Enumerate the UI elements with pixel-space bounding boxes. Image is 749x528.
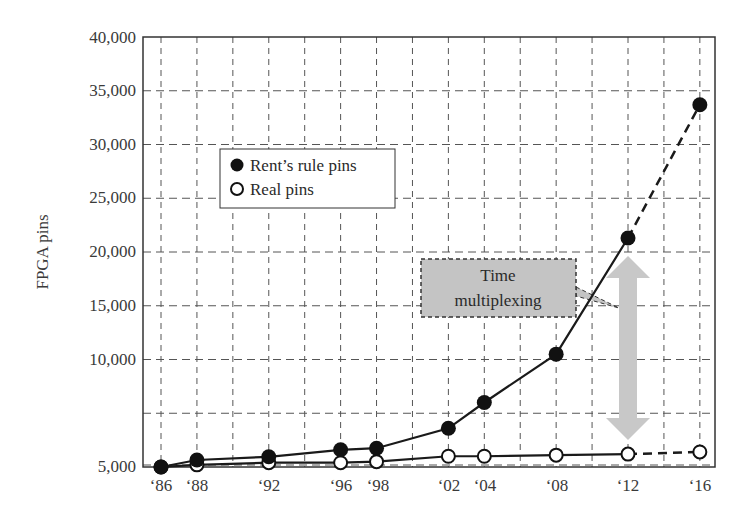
open-circle-marker-icon: [231, 183, 243, 195]
time-multiplexing-callout: Time multiplexing: [421, 259, 619, 317]
x-tick: ‘98: [367, 476, 390, 495]
filled-circle-marker-icon: [549, 347, 564, 362]
open-circle-marker-icon: [693, 445, 706, 458]
y-tick: 10,000: [89, 350, 136, 369]
filled-circle-marker-icon: [154, 460, 169, 475]
filled-circle-marker-icon: [333, 442, 348, 457]
x-tick: ‘88: [186, 476, 209, 495]
filled-circle-marker-icon: [621, 231, 636, 246]
open-circle-marker-icon: [334, 456, 347, 469]
filled-circle-marker-icon: [477, 395, 492, 410]
y-tick: 35,000: [89, 81, 136, 100]
x-axis-ticks: ‘86 ‘88 ‘92 ‘96 ‘98 ‘02 ‘04 ‘08 ‘12 ‘16: [150, 476, 712, 495]
filled-circle-marker-icon: [441, 421, 456, 436]
open-circle-marker-icon: [478, 450, 491, 463]
callout-line-1: Time: [480, 266, 515, 285]
x-tick: ‘86: [150, 476, 173, 495]
y-tick: 15,000: [89, 296, 136, 315]
x-tick: ‘02: [438, 476, 461, 495]
series-line-projected: [628, 452, 700, 454]
filled-circle-marker-icon: [692, 97, 707, 112]
legend-label-rents-rule: Rent’s rule pins: [250, 156, 357, 175]
open-circle-marker-icon: [622, 448, 635, 461]
callout-line-2: multiplexing: [455, 291, 542, 310]
filled-circle-marker-icon: [369, 441, 384, 456]
x-tick: ‘04: [474, 476, 497, 495]
x-tick: ‘08: [546, 476, 569, 495]
filled-circle-marker-icon: [261, 449, 276, 464]
y-axis-label: FPGA pins: [33, 214, 52, 289]
filled-circle-marker-icon: [231, 159, 244, 172]
open-circle-marker-icon: [550, 449, 563, 462]
y-tick: 25,000: [89, 188, 136, 207]
chart: 5,000 10,000 15,000 20,000 25,000 30,000…: [0, 0, 749, 528]
filled-circle-marker-icon: [189, 453, 204, 468]
y-axis-ticks: 5,000 10,000 15,000 20,000 25,000 30,000…: [89, 28, 136, 476]
y-tick: 30,000: [89, 135, 136, 154]
y-tick: 40,000: [89, 28, 136, 47]
y-tick: 20,000: [89, 242, 136, 261]
legend: Rent’s rule pins Real pins: [220, 149, 395, 208]
open-circle-marker-icon: [442, 450, 455, 463]
y-tick: 5,000: [98, 457, 136, 476]
x-tick: ‘12: [617, 476, 640, 495]
callout-pointer: [576, 287, 619, 308]
x-tick: ‘92: [258, 476, 281, 495]
legend-label-real-pins: Real pins: [250, 180, 314, 199]
double-arrow-icon: [606, 256, 650, 440]
x-tick: ‘16: [689, 476, 712, 495]
double-arrow: [606, 256, 650, 440]
open-circle-marker-icon: [370, 455, 383, 468]
x-tick: ‘96: [330, 476, 353, 495]
